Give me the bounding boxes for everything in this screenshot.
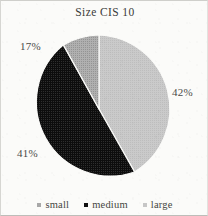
legend-label-medium: medium xyxy=(92,199,128,210)
legend-label-large: large xyxy=(151,199,173,210)
pie-slices xyxy=(36,35,170,176)
pie-chart-figure: Size CIS 10 xyxy=(0,0,208,216)
legend-item-large: large xyxy=(143,199,173,210)
pie-plot-area: 42% 41% 17% xyxy=(1,1,208,191)
chart-legend: small medium large xyxy=(1,199,208,210)
pie-label-small: 17% xyxy=(20,40,41,52)
pie-label-large: 42% xyxy=(172,86,193,98)
legend-swatch-large-icon xyxy=(143,203,147,207)
legend-swatch-medium-icon xyxy=(84,203,88,207)
pie-label-medium: 41% xyxy=(17,147,38,159)
legend-item-medium: medium xyxy=(84,199,128,210)
legend-label-small: small xyxy=(45,199,69,210)
legend-swatch-small-icon xyxy=(37,203,41,207)
chart-title: Size CIS 10 xyxy=(1,6,208,18)
legend-item-small: small xyxy=(37,199,69,210)
